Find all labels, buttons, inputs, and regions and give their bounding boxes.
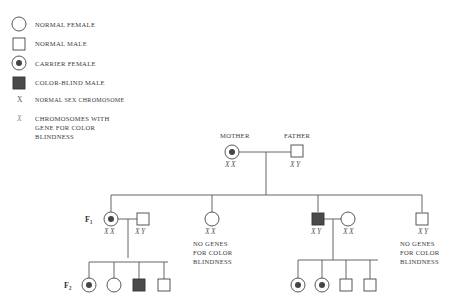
f1-member-3-genotype: XY bbox=[310, 227, 323, 236]
f1-member-1-genotype: XX bbox=[103, 227, 116, 236]
mother-label: MOTHER bbox=[220, 132, 250, 139]
f1-member-1: XX XY bbox=[103, 212, 149, 258]
mother-carrier-female-icon bbox=[225, 145, 239, 159]
legend-label-color-gene-line1: CHROMOSOMES WITH bbox=[35, 115, 109, 122]
legend-label-color-gene-line3: BLINDNESS bbox=[35, 133, 74, 140]
father-genotype: XY bbox=[289, 160, 302, 169]
f1-member-4-note-line2: FOR COLOR bbox=[400, 249, 440, 256]
f1-member-2-note-line2: FOR COLOR bbox=[193, 249, 233, 256]
legend-label-normal-male: NORMAL MALE bbox=[35, 40, 87, 47]
f2-color-blind-male-icon bbox=[133, 279, 145, 291]
f2-generation-label: F₂ bbox=[64, 281, 72, 290]
f2-normal-male-icon bbox=[364, 279, 376, 291]
f1-member-2: XX NO GENES FOR COLOR BLINDNESS bbox=[193, 212, 233, 265]
f1-member-3: XY XX bbox=[310, 212, 355, 260]
legend-color-blind-male-icon bbox=[13, 77, 25, 89]
f1-member-4: XY NO GENES FOR COLOR BLINDNESS bbox=[400, 213, 440, 265]
f2-family-1 bbox=[82, 262, 170, 292]
f1-member-2-genotype: XX bbox=[204, 227, 217, 236]
legend-label-normal-sex-chromosome: NORMAL SEX CHROMOSOME bbox=[35, 97, 124, 103]
f2-normal-male-icon bbox=[158, 279, 170, 291]
f1-member-1-spouse-genotype: XY bbox=[134, 227, 147, 236]
legend-normal-female-icon bbox=[12, 17, 26, 31]
spouse-normal-male-icon bbox=[137, 213, 149, 225]
legend-label-carrier-female: CARRIER FEMALE bbox=[35, 60, 96, 67]
f2-normal-female-icon bbox=[107, 278, 121, 292]
legend-label-color-gene-line2: GENE FOR COLOR bbox=[35, 124, 96, 131]
mother-genotype: XX bbox=[224, 160, 237, 169]
f1-member-4-note-line3: BLINDNESS bbox=[400, 258, 439, 265]
f2-family-2 bbox=[291, 260, 378, 292]
legend-label-normal-female: NORMAL FEMALE bbox=[35, 21, 95, 28]
f1-generation-label: F₁ bbox=[85, 215, 93, 224]
f2-carrier-female-icon bbox=[82, 278, 96, 292]
f2-carrier-female-icon bbox=[315, 278, 329, 292]
color-blind-male-icon bbox=[312, 213, 324, 225]
normal-male-icon bbox=[416, 213, 428, 225]
spouse-normal-female-icon bbox=[341, 212, 355, 226]
f2-normal-male-icon bbox=[340, 279, 352, 291]
f1-member-2-note-line1: NO GENES bbox=[193, 240, 228, 247]
legend-normal-x-symbol: X bbox=[17, 95, 23, 104]
f1-member-2-note-line3: BLINDNESS bbox=[193, 258, 232, 265]
parents: MOTHER FATHER XX XY bbox=[220, 132, 311, 195]
pedigree-diagram: NORMAL FEMALE NORMAL MALE CARRIER FEMALE… bbox=[0, 0, 468, 306]
f1-member-3-spouse-genotype: XX bbox=[342, 227, 355, 236]
f2-carrier-female-icon bbox=[291, 278, 305, 292]
legend-carrier-female-icon bbox=[12, 56, 26, 70]
father-normal-male-icon bbox=[291, 145, 303, 157]
legend-color-gene-x-symbol: X bbox=[16, 114, 22, 123]
f1-member-4-note-line1: NO GENES bbox=[400, 240, 435, 247]
carrier-female-icon bbox=[104, 212, 118, 226]
legend: NORMAL FEMALE NORMAL MALE CARRIER FEMALE… bbox=[12, 17, 124, 140]
legend-label-color-blind-male: COLOR-BLIND MALE bbox=[35, 79, 105, 86]
f1-member-4-genotype: XY bbox=[417, 227, 430, 236]
legend-normal-male-icon bbox=[13, 38, 25, 50]
normal-female-icon bbox=[205, 212, 219, 226]
father-label: FATHER bbox=[284, 132, 311, 139]
